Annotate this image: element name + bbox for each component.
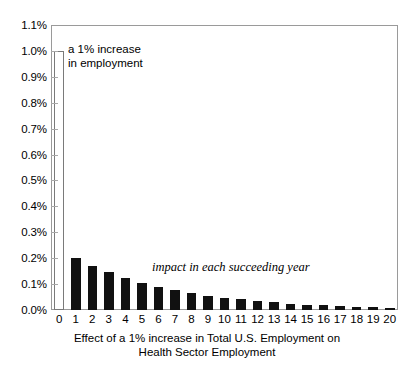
y-axis-tick-mark bbox=[51, 258, 58, 259]
annotation-tail-note: impact in each succeeding year bbox=[152, 260, 310, 274]
x-axis-tick-label: 4 bbox=[117, 312, 134, 326]
x-axis-tick-label: 1 bbox=[68, 312, 85, 326]
y-axis-tick-label: 1.1% bbox=[21, 18, 47, 32]
chart-figure: 0.0%0.1%0.2%0.3%0.4%0.5%0.6%0.7%0.8%0.9%… bbox=[0, 0, 414, 372]
y-axis-tick-label: 0.3% bbox=[21, 225, 47, 239]
x-axis-tick-label: 20 bbox=[381, 312, 398, 326]
y-axis-tick-mark bbox=[51, 129, 58, 130]
bar bbox=[302, 305, 312, 310]
caption-line-2: Health Sector Employment bbox=[0, 345, 414, 359]
x-axis-tick-label: 7 bbox=[167, 312, 184, 326]
annotation-hollow-bar-note: a 1% increase in employment bbox=[68, 42, 143, 70]
x-axis-tick-label: 3 bbox=[101, 312, 118, 326]
bar bbox=[319, 305, 329, 310]
bar bbox=[253, 301, 263, 310]
x-axis-tick-label: 0 bbox=[51, 312, 68, 326]
y-axis-tick-mark bbox=[51, 206, 58, 207]
x-axis-tick-label: 19 bbox=[365, 312, 382, 326]
bar bbox=[88, 266, 98, 310]
y-axis-tick-label: 1.0% bbox=[21, 44, 47, 58]
bar bbox=[385, 308, 395, 310]
y-axis-tick-label: 0.0% bbox=[21, 303, 47, 317]
x-axis-tick-label: 17 bbox=[332, 312, 349, 326]
x-axis-tick-label: 12 bbox=[249, 312, 266, 326]
y-axis-tick-mark bbox=[51, 232, 58, 233]
bar bbox=[137, 283, 147, 310]
x-axis-tick-label: 9 bbox=[200, 312, 217, 326]
bar bbox=[236, 299, 246, 310]
bar bbox=[269, 302, 279, 310]
x-axis-tick-label: 8 bbox=[183, 312, 200, 326]
y-axis-tick-label: 0.4% bbox=[21, 199, 47, 213]
x-axis-tick-label: 6 bbox=[150, 312, 167, 326]
x-axis-tick-label: 2 bbox=[84, 312, 101, 326]
bar bbox=[286, 304, 296, 310]
bar bbox=[187, 293, 197, 310]
y-axis-tick-mark bbox=[51, 284, 58, 285]
y-axis-tick-label: 0.9% bbox=[21, 70, 47, 84]
bar bbox=[154, 287, 164, 310]
x-axis-tick-label: 16 bbox=[315, 312, 332, 326]
y-axis-tick-mark bbox=[51, 77, 58, 78]
bar bbox=[335, 306, 345, 310]
y-axis-tick-mark bbox=[51, 180, 58, 181]
y-axis-tick-label: 0.6% bbox=[21, 148, 47, 162]
bar bbox=[71, 258, 81, 310]
bar bbox=[203, 296, 213, 311]
x-axis-tick-label: 15 bbox=[299, 312, 316, 326]
bar bbox=[104, 272, 114, 310]
chart-caption: Effect of a 1% increase in Total U.S. Em… bbox=[0, 331, 414, 359]
y-axis-tick-label: 0.8% bbox=[21, 96, 47, 110]
y-axis-tick-mark bbox=[51, 155, 58, 156]
bar bbox=[121, 278, 131, 310]
y-axis: 0.0%0.1%0.2%0.3%0.4%0.5%0.6%0.7%0.8%0.9%… bbox=[0, 25, 47, 310]
y-axis-tick-mark bbox=[51, 51, 58, 52]
y-axis-tick-label: 0.5% bbox=[21, 173, 47, 187]
y-axis-tick-mark bbox=[51, 103, 58, 104]
x-axis-tick-label: 10 bbox=[216, 312, 233, 326]
bar bbox=[220, 298, 230, 310]
bar bbox=[170, 290, 180, 310]
x-axis-tick-label: 14 bbox=[282, 312, 299, 326]
y-axis-tick-label: 0.7% bbox=[21, 122, 47, 136]
y-axis-tick-label: 0.1% bbox=[21, 277, 47, 291]
bar bbox=[368, 307, 378, 310]
x-axis-tick-label: 18 bbox=[348, 312, 365, 326]
bar bbox=[352, 307, 362, 310]
caption-line-1: Effect of a 1% increase in Total U.S. Em… bbox=[0, 331, 414, 345]
x-axis-tick-label: 11 bbox=[233, 312, 250, 326]
x-axis-tick-label: 13 bbox=[266, 312, 283, 326]
x-axis-tick-label: 5 bbox=[134, 312, 151, 326]
x-axis: 01234567891011121314151617181920 bbox=[51, 312, 398, 328]
y-axis-tick-label: 0.2% bbox=[21, 251, 47, 265]
